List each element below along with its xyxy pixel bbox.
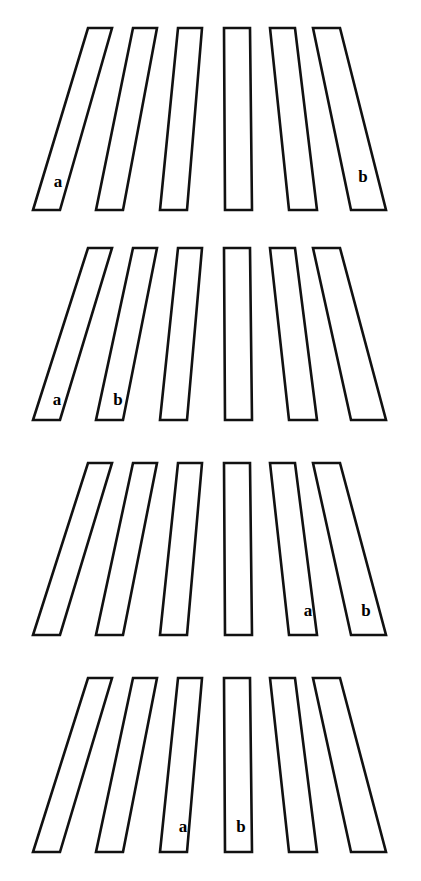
bar-2-3 — [160, 248, 202, 420]
bar-2-1-labeled-a — [33, 248, 112, 420]
bar-4-6 — [313, 678, 386, 852]
figure-canvas: abababab — [0, 0, 421, 881]
bar-3-4 — [224, 463, 252, 635]
bar-2-6 — [313, 248, 386, 420]
bar-1-4 — [224, 28, 252, 210]
bar-label-a-panel-4: a — [179, 817, 188, 836]
bar-label-b-panel-4: b — [236, 817, 245, 836]
bar-panel-3: ab — [0, 455, 421, 645]
bar-label-a-panel-1: a — [54, 172, 63, 191]
bar-group-3: ab — [0, 455, 421, 645]
bar-label-b-panel-1: b — [358, 167, 367, 186]
bar-panel-2: ab — [0, 240, 421, 430]
bar-1-5 — [270, 28, 317, 210]
bar-panel-1: ab — [0, 20, 421, 220]
bar-3-6-labeled-b — [313, 463, 386, 635]
bar-1-6-labeled-b — [313, 28, 386, 210]
bar-label-b-panel-2: b — [113, 390, 122, 409]
bar-label-a-panel-2: a — [53, 390, 62, 409]
bar-3-1 — [33, 463, 112, 635]
bar-4-1 — [33, 678, 112, 852]
bar-label-b-panel-3: b — [361, 601, 370, 620]
bar-4-5 — [270, 678, 317, 852]
bar-group-1: ab — [0, 20, 421, 220]
bar-label-a-panel-3: a — [304, 601, 313, 620]
bar-3-3 — [160, 463, 202, 635]
bar-2-5 — [270, 248, 317, 420]
bar-1-1-labeled-a — [33, 28, 112, 210]
bar-2-4 — [224, 248, 252, 420]
bar-1-3 — [160, 28, 202, 210]
bar-panel-4: ab — [0, 670, 421, 862]
bar-group-4: ab — [0, 670, 421, 862]
bar-group-2: ab — [0, 240, 421, 430]
